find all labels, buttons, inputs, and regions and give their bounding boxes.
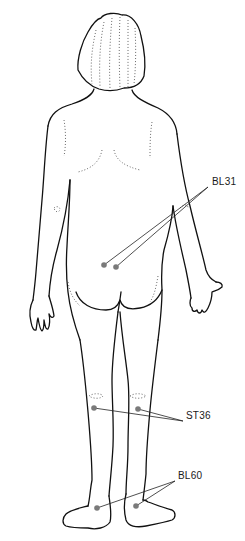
left-leg-inner — [109, 312, 118, 496]
right-arm-outer — [177, 134, 216, 282]
label-st36: ST36 — [186, 410, 211, 421]
bl31-point-left — [101, 262, 107, 268]
knee-right — [130, 394, 146, 399]
left-arm-outer — [33, 126, 48, 300]
left-shoulder-outline — [48, 89, 94, 126]
elbow-left — [54, 207, 60, 212]
right-shoulder-outline — [132, 90, 177, 134]
right-leg-outer — [143, 340, 158, 500]
knee-left — [89, 394, 103, 399]
st36-point-left — [91, 405, 97, 411]
scapula-right — [114, 122, 152, 170]
label-bl31: BL31 — [212, 176, 236, 187]
bl31-leader-2 — [116, 187, 208, 267]
right-arm-inner — [173, 206, 191, 298]
bl31-point-right — [113, 264, 119, 270]
st36-point-right — [135, 406, 141, 412]
right-leg-inner — [120, 312, 129, 494]
right-foot — [125, 494, 176, 527]
left-foot — [63, 496, 111, 529]
bl60-point-left — [94, 505, 100, 511]
torso-right-side — [158, 206, 173, 340]
bl60-leader-2 — [136, 481, 175, 506]
hair-strands — [91, 17, 135, 88]
scapula-left — [64, 120, 102, 172]
torso-left-side — [66, 180, 80, 340]
left-leg-outer — [80, 340, 92, 506]
bl60-point-right — [133, 503, 139, 509]
st36-leader-2 — [138, 409, 183, 421]
bl31-leader-1 — [104, 187, 208, 265]
right-hand — [190, 282, 222, 313]
label-bl60: BL60 — [178, 470, 202, 481]
body-figure — [0, 0, 245, 541]
left-hand — [30, 296, 54, 331]
